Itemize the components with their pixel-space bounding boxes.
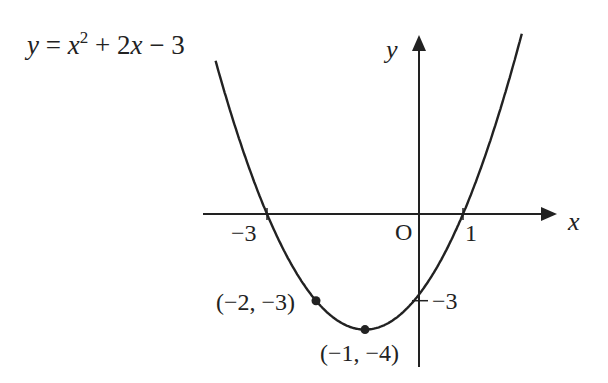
equation-rest1: + 2 (88, 30, 130, 60)
x-tick-label: −3 (231, 220, 257, 246)
y-tick-label: −3 (432, 288, 458, 314)
x-tick-label: 1 (465, 220, 477, 246)
point-marker (312, 296, 321, 305)
equation-sup: 2 (80, 28, 89, 47)
equation-x2: x (129, 30, 142, 60)
equation-rest2: − 3 (142, 30, 184, 60)
point-marker (361, 325, 370, 334)
equation-y: y (24, 30, 39, 60)
x-axis-arrow-icon (541, 207, 557, 221)
point-label: (−1, −4) (320, 340, 399, 366)
y-axis-arrow-icon (412, 35, 426, 51)
parabola-curve (216, 34, 522, 330)
equation-label: y = x2 + 2x − 3 (24, 28, 185, 60)
x-axis-label: x (567, 207, 580, 236)
marked-points: (−2, −3)(−1, −4) (216, 289, 399, 366)
origin-label: O (395, 219, 412, 245)
equation-eq: = (39, 30, 68, 60)
point-label: (−2, −3) (216, 289, 295, 315)
equation-x1: x (67, 30, 80, 60)
y-axis-label: y (383, 35, 398, 64)
parabola-figure: y = x2 + 2x − 3 x y O −31−3 (−2, −3)(−1,… (0, 0, 608, 383)
